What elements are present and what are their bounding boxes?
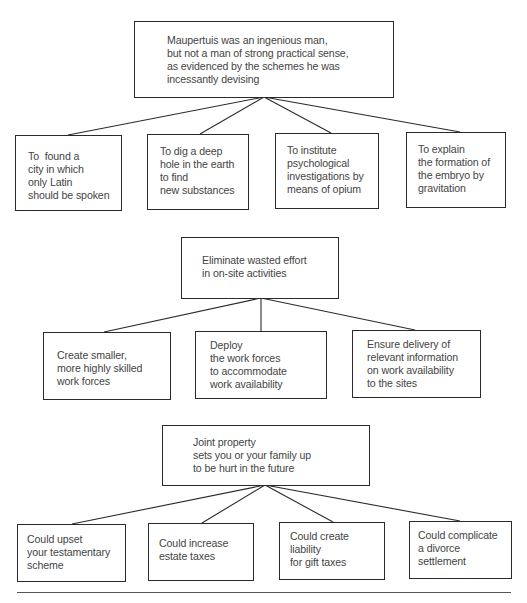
child-text-line: To explain [418,143,505,156]
child-text-line: the embryo by [418,169,505,182]
diagram-3-child-box-3: Could create liability for gift taxes [279,522,385,580]
bottom-divider-rule [17,592,511,593]
root-text-line: to be hurt in the future [193,462,369,475]
child-text-line: to find [160,171,248,184]
diagram-3-root-box: Joint property sets you or your family u… [162,425,370,486]
child-text-line: To institute [287,144,378,157]
diagram-2-child-box-1: Create smaller, more highly skilled work… [43,332,171,400]
child-text-line: settlement [418,555,511,568]
diagram-1-child-box-2: To dig a deep hole in the earth to find … [147,134,249,210]
root-text-line: Joint property [193,436,369,449]
child-text-line: the work forces [210,352,326,365]
root-text-line: but not a man of strong practical sense, [167,47,393,60]
child-text-line: work forces [57,375,170,388]
diagram-2-root-box: Eliminate wasted effort in on-site activ… [181,237,339,299]
child-text-line: only Latin [28,176,121,189]
child-text-line: gravitation [418,182,505,195]
diagram-3-child-box-4: Could complicate a divorce settlement [409,521,512,579]
child-text-line: city in which [28,163,121,176]
tree-diagrams-figure: Maupertuis was an ingenious man, but not… [0,0,527,603]
child-text-line: new substances [160,184,248,197]
child-text-line: Ensure delivery of [367,338,480,351]
diagram-1-root-box: Maupertuis was an ingenious man, but not… [134,21,394,98]
child-text-line: Create smaller, [57,349,170,362]
child-text-line: to accommodate [210,365,326,378]
root-text-line: incessantly devising [167,73,393,86]
child-text-line: your testamentary [27,546,125,559]
child-text-line: more highly skilled [57,362,170,375]
root-text-line: in on-site activities [202,267,338,280]
child-text-line: Could increase [159,537,253,550]
root-text-line: as evidenced by the schemes he was [167,60,393,73]
child-text-line: for gift taxes [290,556,384,569]
child-text-line: scheme [27,559,125,572]
diagram-2-child-box-2: Deploy the work forces to accommodate wo… [195,331,327,399]
diagram-3-child-box-1: Could upset your testamentary scheme [17,524,126,582]
child-text-line: Could create [290,530,384,543]
child-text-line: should be spoken [28,189,121,202]
child-text-line: To dig a deep [160,145,248,158]
child-text-line: hole in the earth [160,158,248,171]
diagram-3-child-box-2: Could increase estate taxes [148,523,254,581]
child-text-line: on work availability [367,364,480,377]
root-text-line: Maupertuis was an ingenious man, [167,34,393,47]
child-text-line: to the sites [367,377,480,390]
child-text-line: the formation of [418,156,505,169]
child-text-line: Deploy [210,339,326,352]
child-text-line: relevant information [367,351,480,364]
child-text-line: liability [290,543,384,556]
diagram-1-child-box-1: To found a city in which only Latin shou… [15,135,122,211]
child-text-line: means of opium [287,183,378,196]
root-text-line: Eliminate wasted effort [202,254,338,267]
child-text-line: psychological [287,157,378,170]
child-text-line: estate taxes [159,550,253,563]
child-text-line: To found a [28,150,121,163]
child-text-line: a divorce [418,542,511,555]
diagram-2-child-box-3: Ensure delivery of relevant information … [352,330,481,398]
child-text-line: work availability [210,378,326,391]
diagram-1-child-box-4: To explain the formation of the embryo b… [406,132,506,208]
child-text-line: investigations by [287,170,378,183]
child-text-line: Could complicate [418,529,511,542]
root-text-line: sets you or your family up [193,449,369,462]
child-text-line: Could upset [27,533,125,546]
diagram-1-child-box-3: To institute psychological investigation… [275,133,379,209]
